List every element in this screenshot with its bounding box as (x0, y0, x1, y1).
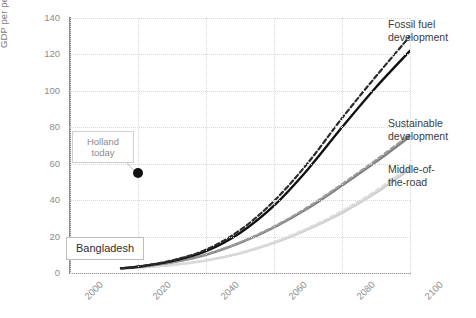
series-line-fossil-fuel-development-variant (121, 36, 410, 268)
y-tick-label: 80 (26, 122, 60, 132)
x-tick-label: 2060 (286, 279, 309, 302)
bangladesh-label: Bangladesh (66, 237, 144, 260)
y-tick-label: 20 (26, 232, 60, 242)
gridline-vertical (138, 18, 139, 273)
y-tick-label: 60 (26, 159, 60, 169)
x-tick-label: 2020 (150, 279, 173, 302)
gridline-horizontal (70, 273, 410, 274)
gridline-vertical (410, 18, 411, 273)
y-tick-label: 0 (26, 268, 60, 278)
series-label-middle-road: Middle-of- the-road (388, 163, 435, 188)
gridline-vertical (206, 18, 207, 273)
series-line-middle-of-the-road-variant (121, 166, 410, 268)
gridline-vertical (274, 18, 275, 273)
series-label-fossil-fuel: Fossil fuel development (388, 18, 448, 43)
gridline-horizontal (70, 91, 410, 92)
holland-today-callout: Holland today (72, 131, 134, 163)
y-tick-label: 120 (26, 49, 60, 59)
x-tick-label: 2100 (422, 279, 445, 302)
x-tick-label: 2040 (218, 279, 241, 302)
gdp-projection-chart: 020406080100120140 200020202040206020802… (0, 0, 476, 318)
gridline-vertical (342, 18, 343, 273)
gridline-horizontal (70, 54, 410, 55)
y-tick-label: 40 (26, 195, 60, 205)
series-label-sustainable: Sustainable development (388, 117, 448, 142)
gridline-vertical (70, 18, 71, 273)
gridline-horizontal (70, 200, 410, 201)
y-axis-title: GDP per person, thousand 2011 $PPP (0, 0, 9, 48)
gridline-horizontal (70, 164, 410, 165)
series-line-sustainable-development-variant (121, 135, 410, 269)
series-line-sustainable-development (121, 136, 410, 268)
y-tick-label: 140 (26, 13, 60, 23)
y-tick-label: 100 (26, 86, 60, 96)
x-tick-label: 2000 (82, 279, 105, 302)
series-line-middle-of-the-road (121, 169, 410, 268)
gridline-horizontal (70, 127, 410, 128)
gridline-horizontal (70, 18, 410, 19)
holland-today-marker (133, 168, 143, 178)
x-tick-label: 2080 (354, 279, 377, 302)
